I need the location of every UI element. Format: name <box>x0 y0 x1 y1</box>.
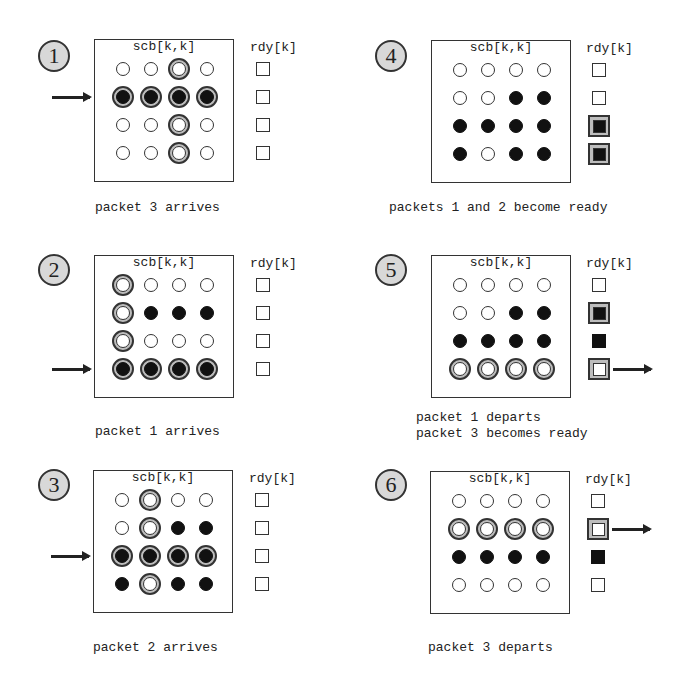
open-circle-icon <box>116 146 130 160</box>
matrix-label: scb[k,k] <box>431 471 569 486</box>
changed-ready-bit-icon <box>588 115 610 137</box>
open-circle-icon <box>200 118 214 132</box>
matrix-cell <box>137 327 165 355</box>
changed-cell-ring-icon <box>111 545 133 567</box>
changed-cell-ring-icon <box>140 86 162 108</box>
matrix-cell <box>137 55 165 83</box>
open-circle-icon <box>481 147 495 161</box>
open-circle-icon <box>536 494 550 508</box>
matrix-cell <box>473 543 501 571</box>
matrix-cell <box>136 570 164 598</box>
open-square-icon <box>255 549 269 563</box>
matrix-cell <box>530 355 558 383</box>
output-arrow-icon <box>613 368 651 371</box>
open-square-icon <box>592 63 606 77</box>
input-arrow-icon <box>52 368 90 371</box>
matrix-cell <box>165 111 193 139</box>
open-circle-icon <box>452 578 466 592</box>
step-caption: packet 1 departs packet 3 becomes ready <box>416 410 588 442</box>
ready-vector-label: rdy[k] <box>250 40 297 55</box>
changed-cell-ring-icon <box>476 518 498 540</box>
step-caption: packet 3 departs <box>428 640 553 656</box>
step-number-badge: 3 <box>38 469 70 501</box>
filled-circle-icon <box>509 306 523 320</box>
filled-circle-icon <box>200 90 214 104</box>
matrix-cell <box>136 514 164 542</box>
matrix-cell <box>473 571 501 599</box>
filled-circle-icon <box>536 550 550 564</box>
matrix-cell <box>529 515 557 543</box>
open-square-icon <box>256 62 270 76</box>
open-circle-icon <box>508 522 522 536</box>
matrix-cell <box>109 139 137 167</box>
open-circle-icon <box>143 521 157 535</box>
ready-vector-label: rdy[k] <box>250 256 297 271</box>
matrix-label: scb[k,k] <box>95 255 233 270</box>
open-circle-icon <box>509 278 523 292</box>
matrix-cell <box>137 139 165 167</box>
open-circle-icon <box>116 334 130 348</box>
filled-circle-icon <box>537 119 551 133</box>
step-number-badge: 6 <box>375 469 407 501</box>
filled-circle-icon <box>172 362 186 376</box>
open-circle-icon <box>115 521 129 535</box>
input-arrow-icon <box>51 555 89 558</box>
filled-circle-icon <box>508 550 522 564</box>
open-circle-icon <box>172 118 186 132</box>
matrix-cell <box>165 55 193 83</box>
matrix-cell <box>446 299 474 327</box>
matrix-cell <box>165 139 193 167</box>
changed-ready-bit-icon <box>588 358 610 380</box>
filled-circle-icon <box>199 549 213 563</box>
open-circle-icon <box>172 146 186 160</box>
open-circle-icon <box>508 494 522 508</box>
matrix-cell <box>193 83 221 111</box>
filled-square-icon <box>593 120 606 133</box>
filled-square-icon <box>592 334 606 348</box>
matrix-cell <box>165 299 193 327</box>
open-circle-icon <box>537 63 551 77</box>
filled-circle-icon <box>171 549 185 563</box>
matrix-label: scb[k,k] <box>94 470 232 485</box>
matrix-cell <box>137 83 165 111</box>
changed-cell-ring-icon <box>112 302 134 324</box>
matrix-cell <box>529 571 557 599</box>
matrix-cell <box>530 140 558 168</box>
matrix-cell <box>108 486 136 514</box>
matrix-cell <box>445 543 473 571</box>
changed-cell-ring-icon <box>139 573 161 595</box>
filled-circle-icon <box>116 362 130 376</box>
filled-circle-icon <box>144 362 158 376</box>
changed-cell-ring-icon <box>196 86 218 108</box>
filled-circle-icon <box>480 550 494 564</box>
matrix-cell <box>446 84 474 112</box>
open-circle-icon <box>453 306 467 320</box>
matrix-cell <box>446 327 474 355</box>
open-circle-icon <box>172 334 186 348</box>
ready-vector-label: rdy[k] <box>585 472 632 487</box>
changed-cell-ring-icon <box>139 489 161 511</box>
open-circle-icon <box>143 493 157 507</box>
ready-vector-label: rdy[k] <box>249 471 296 486</box>
open-circle-icon <box>481 63 495 77</box>
matrix-cell <box>192 486 220 514</box>
open-circle-icon <box>200 278 214 292</box>
matrix-cell <box>109 327 137 355</box>
input-arrow-icon <box>52 96 90 99</box>
filled-circle-icon <box>481 334 495 348</box>
changed-cell-ring-icon <box>195 545 217 567</box>
step-number-badge: 1 <box>38 40 70 72</box>
matrix-cell <box>136 542 164 570</box>
filled-circle-icon <box>537 91 551 105</box>
open-circle-icon <box>537 278 551 292</box>
matrix-cell <box>109 83 137 111</box>
changed-cell-ring-icon <box>168 86 190 108</box>
filled-circle-icon <box>199 577 213 591</box>
changed-cell-ring-icon <box>168 142 190 164</box>
filled-square-icon <box>593 307 606 320</box>
step-caption: packet 3 arrives <box>95 200 220 216</box>
matrix-cell <box>474 271 502 299</box>
filled-circle-icon <box>171 521 185 535</box>
open-circle-icon <box>509 63 523 77</box>
open-circle-icon <box>172 62 186 76</box>
